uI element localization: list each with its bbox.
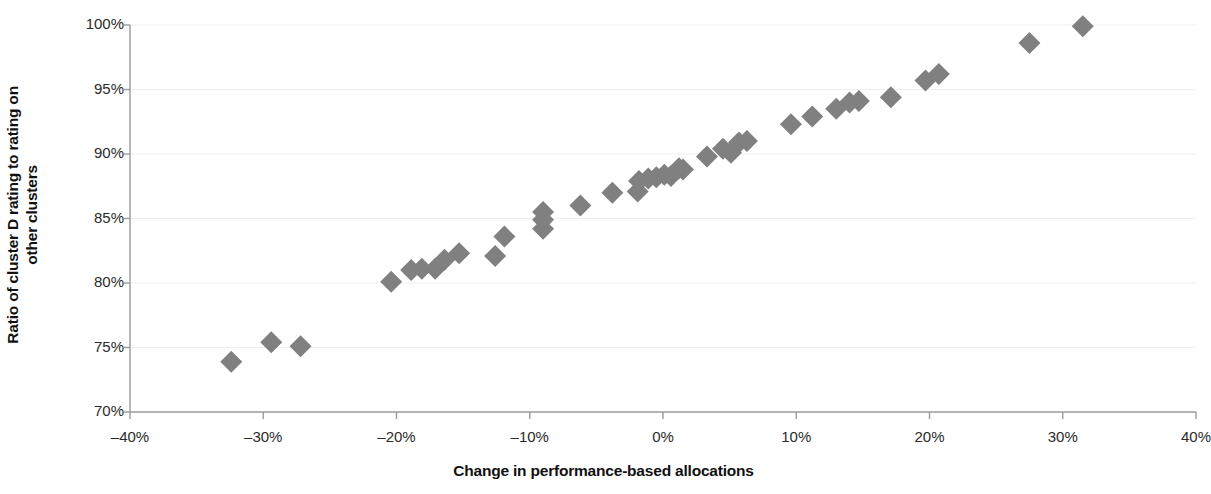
x-axis-tick-label: –20% — [377, 428, 415, 445]
x-axis-tick-label: –10% — [511, 428, 549, 445]
x-axis-tick-label: 10% — [781, 428, 811, 445]
data-point-marker — [380, 271, 402, 293]
x-axis-tick-labels: –40%–30%–20%–10%0%10%20%30%40% — [0, 428, 1207, 452]
data-point-marker — [260, 331, 282, 353]
x-axis-tick-label: 30% — [1048, 428, 1078, 445]
data-point-marker — [780, 113, 802, 135]
data-point-marker — [569, 195, 591, 217]
x-axis-tick-label: –30% — [244, 428, 282, 445]
data-point-marker — [601, 182, 623, 204]
data-point-marker — [1072, 15, 1094, 37]
data-point-marker — [801, 106, 823, 128]
x-axis-title: Change in performance-based allocations — [0, 462, 1207, 480]
x-axis-tick-label: 20% — [914, 428, 944, 445]
data-point-marker — [290, 335, 312, 357]
data-point-marker — [220, 351, 242, 373]
data-point-marker — [484, 245, 506, 267]
data-point-marker — [1018, 32, 1040, 54]
data-point-marker — [493, 226, 515, 248]
x-axis-tick-label: 40% — [1181, 428, 1211, 445]
x-axis-tick-label: –40% — [111, 428, 149, 445]
x-axis-tick-label: 0% — [652, 428, 674, 445]
